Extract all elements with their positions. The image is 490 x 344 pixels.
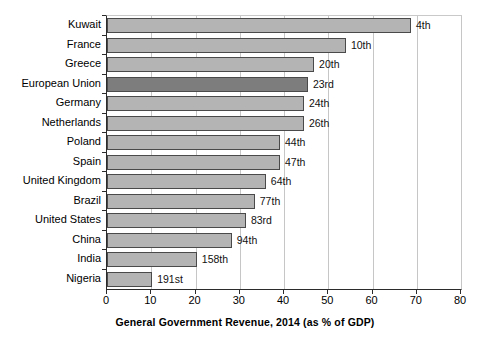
x-tick-label-20: 20	[175, 294, 215, 306]
bar-netherlands	[107, 116, 304, 131]
rank-annotation: 4th	[416, 18, 431, 33]
category-axis: KuwaitFranceGreeceEuropean UnionGermanyN…	[0, 15, 101, 288]
rank-annotation: 10th	[351, 38, 371, 53]
category-label-spain: Spain	[73, 152, 101, 172]
bar-united-states	[107, 213, 246, 228]
bar-row: 10th	[107, 36, 461, 56]
bar-kuwait	[107, 18, 411, 33]
plot-area: 4th10th20th23rd24th26th44th47th64th77th8…	[106, 15, 462, 290]
category-label-france: France	[67, 35, 101, 55]
bar-poland	[107, 135, 280, 150]
category-label-european-union: European Union	[21, 74, 101, 94]
rank-annotation: 23rd	[313, 77, 334, 92]
category-label-brazil: Brazil	[73, 191, 101, 211]
bar-greece	[107, 57, 314, 72]
category-tick	[102, 54, 106, 55]
category-tick	[102, 93, 106, 94]
bar-row: 191st	[107, 270, 461, 290]
x-tick-label-50: 50	[307, 294, 347, 306]
bar-spain	[107, 155, 280, 170]
rank-annotation: 77th	[260, 194, 280, 209]
rank-annotation: 20th	[319, 57, 339, 72]
bar-germany	[107, 96, 304, 111]
category-tick	[102, 152, 106, 153]
category-tick	[102, 171, 106, 172]
rank-annotation: 47th	[285, 155, 305, 170]
bar-france	[107, 38, 346, 53]
x-tick-label-0: 0	[86, 294, 126, 306]
bar-row: 47th	[107, 153, 461, 173]
bar-china	[107, 233, 232, 248]
rank-annotation: 83rd	[251, 213, 272, 228]
category-label-nigeria: Nigeria	[66, 269, 101, 289]
rank-annotation: 191st	[157, 272, 183, 287]
rank-annotation: 24th	[309, 96, 329, 111]
bar-united-kingdom	[107, 174, 266, 189]
bar-india	[107, 252, 197, 267]
category-label-greece: Greece	[65, 54, 101, 74]
category-tick	[102, 249, 106, 250]
category-tick	[102, 74, 106, 75]
category-tick	[102, 132, 106, 133]
category-tick	[102, 35, 106, 36]
rank-annotation: 158th	[202, 252, 228, 267]
bar-row: 94th	[107, 231, 461, 251]
x-tick-label-60: 60	[352, 294, 392, 306]
bar-nigeria	[107, 272, 152, 287]
x-tick-label-10: 10	[130, 294, 170, 306]
bar-row: 20th	[107, 55, 461, 75]
category-tick	[102, 210, 106, 211]
category-label-germany: Germany	[56, 93, 101, 113]
bar-row: 26th	[107, 114, 461, 134]
category-label-kuwait: Kuwait	[68, 15, 101, 35]
category-tick	[102, 113, 106, 114]
x-tick-label-30: 30	[219, 294, 259, 306]
category-label-united-kingdom: United Kingdom	[23, 171, 101, 191]
axis-title: General Government Revenue, 2014 (as % o…	[0, 316, 490, 328]
rank-annotation: 44th	[285, 135, 305, 150]
category-tick	[102, 191, 106, 192]
bar-row: 64th	[107, 172, 461, 192]
bar-row: 24th	[107, 94, 461, 114]
rank-annotation: 26th	[309, 116, 329, 131]
bar-chart: KuwaitFranceGreeceEuropean UnionGermanyN…	[0, 0, 490, 344]
rank-annotation: 94th	[237, 233, 257, 248]
bar-row: 4th	[107, 16, 461, 36]
bar-row: 158th	[107, 250, 461, 270]
bar-row: 83rd	[107, 211, 461, 231]
category-tick	[102, 15, 106, 16]
x-tick-label-80: 80	[440, 294, 480, 306]
bar-european-union	[107, 77, 308, 92]
category-label-china: China	[72, 230, 101, 250]
gridline-80	[461, 16, 462, 289]
bar-row: 23rd	[107, 75, 461, 95]
category-label-india: India	[77, 249, 101, 269]
rank-annotation: 64th	[271, 174, 291, 189]
bar-brazil	[107, 194, 255, 209]
category-label-poland: Poland	[67, 132, 101, 152]
category-label-united-states: United States	[35, 210, 101, 230]
x-tick-label-70: 70	[396, 294, 436, 306]
x-tick-label-40: 40	[263, 294, 303, 306]
bar-row: 77th	[107, 192, 461, 212]
bar-rows: 4th10th20th23rd24th26th44th47th64th77th8…	[107, 16, 461, 289]
category-tick	[102, 269, 106, 270]
category-label-netherlands: Netherlands	[42, 113, 101, 133]
bar-row: 44th	[107, 133, 461, 153]
category-tick	[102, 230, 106, 231]
